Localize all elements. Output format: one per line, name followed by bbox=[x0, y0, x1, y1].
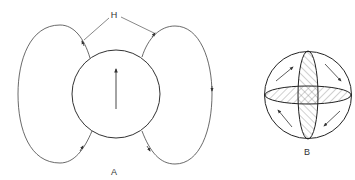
panel-a-label: A bbox=[111, 167, 117, 177]
panel-a: H A bbox=[18, 10, 212, 177]
panel-b: B bbox=[265, 51, 352, 157]
diagram-canvas: H A B bbox=[0, 0, 355, 180]
h-leader-right bbox=[121, 17, 154, 33]
h-label: H bbox=[111, 10, 118, 20]
arrow-icon bbox=[325, 64, 341, 81]
arrow-icon bbox=[324, 111, 340, 126]
arrow-icon bbox=[278, 110, 292, 127]
h-leader-left bbox=[84, 18, 109, 40]
panel-b-label: B bbox=[304, 147, 310, 157]
arrow-icon bbox=[276, 67, 293, 81]
